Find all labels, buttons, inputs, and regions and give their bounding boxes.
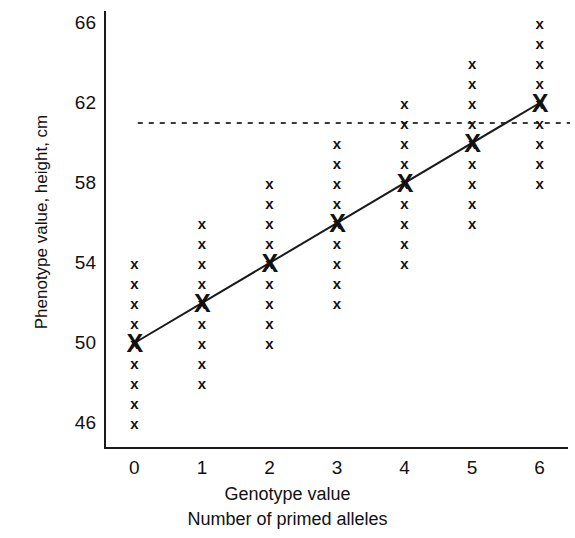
data-point-x: x [265, 216, 273, 231]
data-point-x: x [198, 216, 206, 231]
data-point-x: x [468, 76, 476, 91]
data-point-x: x [535, 116, 543, 131]
x-tick-label: 5 [457, 458, 487, 477]
genotypic-mean-marker: X [532, 91, 548, 116]
x-tick-label: 0 [119, 458, 149, 477]
y-tick-label: 62 [52, 93, 96, 112]
data-point-x: x [535, 156, 543, 171]
data-point-x: x [468, 216, 476, 231]
data-point-x: x [130, 416, 138, 431]
data-point-x: x [333, 156, 341, 171]
y-tick-label: 50 [52, 333, 96, 352]
data-point-x: x [333, 256, 341, 271]
data-point-x: x [198, 336, 206, 351]
data-point-x: x [468, 156, 476, 171]
data-point-x: x [333, 136, 341, 151]
data-point-x: x [130, 396, 138, 411]
data-point-x: x [468, 196, 476, 211]
genotypic-mean-marker: X [194, 291, 210, 316]
data-point-x: x [535, 56, 543, 71]
data-point-x: x [468, 176, 476, 191]
data-point-x: x [198, 236, 206, 251]
x-tick-label: 3 [322, 458, 352, 477]
genotypic-mean-marker: X [127, 331, 143, 356]
data-point-x: x [265, 176, 273, 191]
scatter-plot-figure: Phenotype value, height, cm 666258545046… [0, 0, 575, 538]
x-tick-label: 2 [254, 458, 284, 477]
x-tick-label: 6 [525, 458, 555, 477]
data-point-x: x [535, 176, 543, 191]
data-point-x: x [130, 296, 138, 311]
genotypic-mean-marker: X [397, 171, 413, 196]
y-axis-tick-labels: 666258545046 [46, 0, 96, 538]
data-point-x: x [333, 276, 341, 291]
plot-area: xxxxxxxxxxxxxxxxxxxxxxxxxxxxxxxxxxxxxxxx… [104, 11, 570, 449]
x-tick-label: 1 [187, 458, 217, 477]
data-point-x: x [468, 96, 476, 111]
y-tick-label: 58 [52, 173, 96, 192]
x-axis-title: Genotype value [0, 484, 575, 505]
x-axis-subtitle: Number of primed alleles [0, 509, 575, 530]
data-point-x: x [130, 356, 138, 371]
y-tick-label: 46 [52, 413, 96, 432]
genotypic-mean-marker: X [329, 211, 345, 236]
data-point-x: x [535, 36, 543, 51]
data-point-x: x [198, 256, 206, 271]
data-point-x: x [400, 256, 408, 271]
data-point-x: x [333, 176, 341, 191]
data-point-x: x [198, 316, 206, 331]
data-point-x: x [265, 336, 273, 351]
y-tick-label: 54 [52, 253, 96, 272]
data-point-x: x [400, 196, 408, 211]
data-point-x: x [400, 116, 408, 131]
data-point-x: x [198, 356, 206, 371]
data-point-x: x [130, 276, 138, 291]
data-point-x: x [265, 316, 273, 331]
data-point-x: x [535, 16, 543, 31]
data-point-x: x [468, 56, 476, 71]
data-point-x: x [400, 96, 408, 111]
data-point-x: x [400, 236, 408, 251]
data-point-x: x [265, 296, 273, 311]
data-point-x: x [130, 256, 138, 271]
genotypic-mean-marker: X [262, 251, 278, 276]
data-point-x: x [265, 196, 273, 211]
y-tick-label: 66 [52, 13, 96, 32]
data-point-x: x [198, 376, 206, 391]
data-point-x: x [333, 296, 341, 311]
data-point-x: x [400, 216, 408, 231]
data-point-x: x [333, 236, 341, 251]
data-point-x: x [265, 276, 273, 291]
data-point-x: x [130, 376, 138, 391]
data-point-x: x [535, 136, 543, 151]
genotypic-mean-marker: X [464, 131, 480, 156]
x-tick-label: 4 [390, 458, 420, 477]
data-point-x: x [400, 136, 408, 151]
